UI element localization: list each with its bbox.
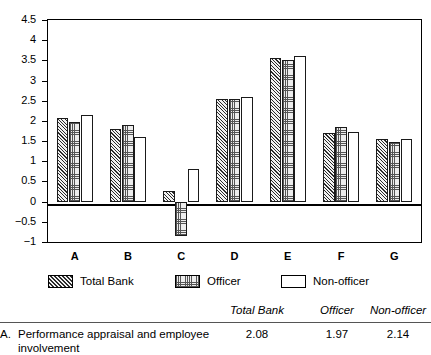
bar	[110, 129, 122, 202]
bar	[270, 58, 282, 201]
bar	[282, 60, 294, 201]
y-tick-label: −1	[24, 236, 36, 247]
bar-chart-figure: −1−0.500.511.522.533.544.5 ABCDEFG Total…	[0, 0, 431, 300]
bar	[335, 127, 347, 202]
bar	[216, 99, 228, 202]
column-header-total-bank: Total Bank	[212, 303, 302, 317]
legend-label: Officer	[207, 275, 241, 288]
legend-item-officer: Officer	[175, 272, 241, 290]
bar	[241, 97, 253, 202]
row-value-non-officer: 2.14	[366, 327, 430, 341]
legend-label: Total Bank	[80, 275, 134, 288]
bar	[229, 99, 241, 202]
legend-label: Non-officer	[313, 275, 369, 288]
column-header-officer: Officer	[306, 303, 368, 317]
y-tick-label: 2	[30, 115, 36, 126]
bar	[348, 132, 360, 201]
y-tick-label: 2.5	[21, 95, 36, 106]
bar	[401, 139, 413, 202]
y-tick-label: 1.5	[21, 135, 36, 146]
x-axis-tick-label: A	[55, 250, 95, 262]
column-header-non-officer: Non-officer	[366, 303, 430, 317]
y-axis: −1−0.500.511.522.533.544.5	[0, 0, 44, 250]
bar	[122, 125, 134, 202]
x-axis-tick-label: D	[215, 250, 255, 262]
x-axis-tick-label: C	[161, 250, 201, 262]
bar-group	[376, 20, 412, 242]
bar	[163, 191, 175, 202]
bar-group	[270, 20, 306, 242]
x-axis-tick-label: F	[321, 250, 361, 262]
row-label: Performance appraisal and employee invol…	[18, 327, 218, 355]
bar-group	[216, 20, 252, 242]
empty-white-swatch-icon	[281, 275, 306, 288]
bar	[389, 142, 401, 202]
y-tick-label: 0.5	[21, 175, 36, 186]
chart-legend: Total Bank Officer Non-officer	[0, 272, 431, 294]
table-header-row: Total Bank Officer Non-officer	[0, 303, 431, 319]
y-tick-label: −0.5	[15, 216, 36, 227]
legend-item-non-officer: Non-officer	[281, 272, 369, 290]
bar-group	[57, 20, 93, 242]
row-value-total-bank: 2.08	[212, 327, 302, 341]
y-tick-label: 3	[30, 75, 36, 86]
bar	[69, 122, 81, 202]
bar	[175, 202, 187, 236]
diagonal-hatch-swatch-icon	[48, 275, 73, 288]
x-axis-tick-label: B	[108, 250, 148, 262]
bar	[188, 169, 200, 201]
bar	[376, 139, 388, 202]
y-tick-label: 4.5	[21, 14, 36, 25]
data-table: Total Bank Officer Non-officer A. Perfor…	[0, 303, 431, 351]
y-tick-label: 1	[30, 155, 36, 166]
x-axis-labels: ABCDEFG	[47, 250, 422, 266]
y-tick-label: 3.5	[21, 54, 36, 65]
bar	[134, 137, 146, 202]
bar	[323, 133, 335, 202]
table-row: A. Performance appraisal and employee in…	[0, 327, 431, 354]
bar-group	[163, 20, 199, 242]
bar-group	[110, 20, 146, 242]
legend-item-total-bank: Total Bank	[48, 272, 134, 290]
x-axis-tick-label: G	[374, 250, 414, 262]
x-axis-tick-label: E	[268, 250, 308, 262]
row-value-officer: 1.97	[306, 327, 368, 341]
bar	[81, 115, 93, 201]
table-header-rule	[0, 322, 431, 323]
bar	[294, 56, 306, 202]
bar-group	[323, 20, 359, 242]
bar	[57, 118, 69, 202]
y-tick-label: 0	[30, 196, 36, 207]
stipple-dots-swatch-icon	[175, 275, 200, 288]
y-tick-label: 4	[30, 34, 36, 45]
bar-groups	[48, 20, 421, 242]
row-letter: A.	[0, 327, 11, 341]
